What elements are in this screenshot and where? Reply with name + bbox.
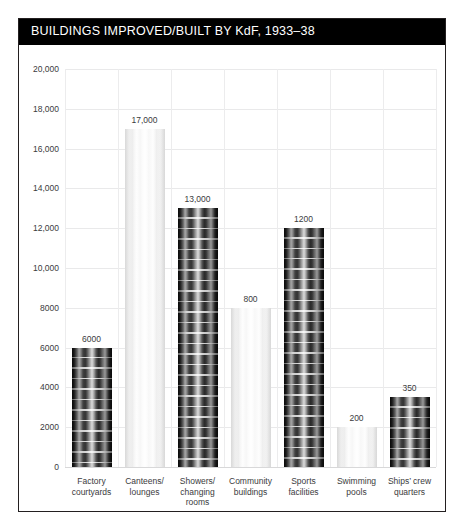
x-axis-label-line: buildings [221,487,281,498]
y-axis-tick-label: 2000 [40,422,59,432]
bar-column: 350Ships’ crewquarters [383,69,436,467]
x-axis-label-line: quarters [380,487,440,498]
bar[interactable] [72,348,112,467]
x-axis-label-line: courtyards [62,487,122,498]
x-axis-label-line: Factory [62,476,122,487]
x-axis-category-label: Swimmingpools [327,476,387,497]
x-axis-category-label: Canteens/lounges [115,476,175,497]
x-axis-label-line: pools [327,487,387,498]
vertical-gridline [436,69,437,467]
bar-column: 800Communitybuildings [224,69,277,467]
plot-area: 0200040006000800010,00012,00014,00016,00… [65,69,436,467]
bar-value-label: 17,000 [132,115,158,125]
y-axis-tick-label: 18,000 [33,104,59,114]
y-axis-tick-label: 14,000 [33,183,59,193]
chart-title: BUILDINGS IMPROVED/BUILT BY KdF, 1933–38 [31,24,315,38]
bar[interactable] [125,129,165,467]
x-axis-label-line: Canteens/ [115,476,175,487]
bar-shading [178,208,218,467]
bar-value-label: 200 [349,413,363,423]
x-axis-category-label: Showers/changingrooms [168,476,228,508]
x-axis-label-line: Sports [274,476,334,487]
y-axis-tick-label: 6000 [40,343,59,353]
bar[interactable] [390,397,430,467]
bar-shading [125,129,165,467]
chart-title-bar: BUILDINGS IMPROVED/BUILT BY KdF, 1933–38 [19,19,445,45]
x-axis-label-line: Community [221,476,281,487]
bar[interactable] [178,208,218,467]
x-axis-category-label: Communitybuildings [221,476,281,497]
bar-shading [390,397,430,467]
bar-value-label: 6000 [82,334,101,344]
gridline [65,467,436,468]
plot-wrapper: 0200040006000800010,00012,00014,00016,00… [19,45,445,511]
bar-value-label: 1200 [294,214,313,224]
bar[interactable] [337,427,377,467]
bar-shading [284,228,324,467]
y-axis-tick-label: 16,000 [33,144,59,154]
x-axis-label-line: Ships’ crew [380,476,440,487]
bar-column: 13,000Showers/changingrooms [171,69,224,467]
x-axis-category-label: Factorycourtyards [62,476,122,497]
bar-shading [231,308,271,467]
x-axis-label-line: Showers/ [168,476,228,487]
bar-value-label: 800 [243,294,257,304]
bar-value-label: 350 [402,383,416,393]
chart-panel: BUILDINGS IMPROVED/BUILT BY KdF, 1933–38… [18,18,446,512]
y-axis-tick-label: 10,000 [33,263,59,273]
y-axis-tick-label: 12,000 [33,223,59,233]
bar[interactable] [284,228,324,467]
y-axis-tick-label: 0 [54,462,59,472]
bar[interactable] [231,308,271,467]
bar-column: 1200Sportsfacilities [277,69,330,467]
bar-column: 6000Factorycourtyards [65,69,118,467]
bar-value-label: 13,000 [185,194,211,204]
y-axis-tick-label: 8000 [40,303,59,313]
y-axis-tick-label: 4000 [40,382,59,392]
x-axis-label-line: facilities [274,487,334,498]
x-axis-label-line: lounges [115,487,175,498]
x-axis-category-label: Sportsfacilities [274,476,334,497]
x-axis-category-label: Ships’ crewquarters [380,476,440,497]
x-axis-label-line: Swimming [327,476,387,487]
bar-column: 200Swimmingpools [330,69,383,467]
bar-column: 17,000Canteens/lounges [118,69,171,467]
bar-shading [337,427,377,467]
x-axis-label-line: changing [168,487,228,498]
x-axis-label-line: rooms [168,497,228,508]
y-axis-tick-label: 20,000 [33,64,59,74]
bar-shading [72,348,112,467]
